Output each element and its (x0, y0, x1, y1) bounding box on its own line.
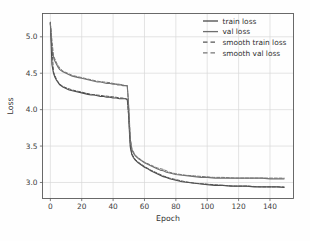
y-tick-label: 4.0 (26, 105, 38, 114)
x-tick-label: 100 (200, 202, 214, 211)
y-tick-label: 3.0 (26, 178, 38, 187)
legend-label: smooth train loss (223, 38, 287, 47)
x-tick-label: 140 (263, 202, 277, 211)
loss-curve-figure: 020406080100120140 3.03.54.04.55.0 train… (0, 0, 310, 241)
x-tick-label: 60 (140, 202, 150, 211)
chart-canvas: 020406080100120140 3.03.54.04.55.0 train… (0, 0, 310, 241)
x-tick-label: 40 (108, 202, 118, 211)
x-tick-label: 20 (77, 202, 87, 211)
y-tick-label: 3.5 (26, 142, 38, 151)
legend-label: val loss (223, 27, 251, 36)
x-tick-label: 0 (48, 202, 53, 211)
x-tick-label: 80 (171, 202, 181, 211)
x-tick-label: 120 (232, 202, 246, 211)
legend-label: smooth val loss (223, 49, 281, 58)
y-axis-title: Loss (6, 97, 15, 114)
y-tick-label: 5.0 (26, 32, 38, 41)
x-axis-title: Epoch (156, 214, 180, 223)
y-tick-label: 4.5 (26, 69, 38, 78)
legend-label: train loss (223, 17, 257, 26)
